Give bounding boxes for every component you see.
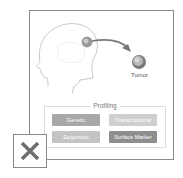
head-silhouette-icon	[37, 24, 98, 94]
close-button[interactable]	[13, 134, 47, 168]
close-icon	[19, 140, 41, 162]
chip-transcriptional: Transcriptional	[109, 114, 157, 126]
tumor-label: Tumor	[131, 72, 148, 78]
profiling-panel: Profiling Genetic Transcriptional Epigen…	[44, 106, 166, 148]
chip-epigenetic: Epigenetic	[52, 131, 100, 143]
chip-surface-marker: Surface Marker	[109, 131, 157, 143]
profiling-title: Profiling	[90, 102, 119, 109]
chip-genetic: Genetic	[52, 114, 100, 126]
